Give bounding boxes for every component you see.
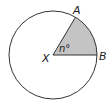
label-b: B: [99, 50, 107, 63]
angle-label: n°: [59, 43, 70, 54]
circle-diagram: A B X n°: [0, 0, 112, 107]
label-a: A: [72, 4, 81, 17]
label-x: X: [41, 52, 50, 65]
